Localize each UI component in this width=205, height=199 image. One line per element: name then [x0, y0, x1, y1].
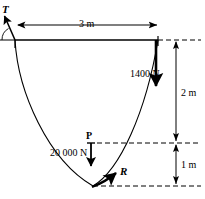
reaction-label: R: [120, 166, 127, 177]
diagram-canvas: [0, 0, 205, 199]
cable-path: [15, 40, 158, 186]
span-dimension-label: 3 m: [79, 19, 94, 29]
load-20000n: [87, 143, 95, 166]
sag-lower-dimension-label: 1 m: [181, 160, 196, 170]
point-p-label: P: [86, 131, 92, 141]
tension-vector: [0, 16, 15, 40]
engineering-diagram: 3 m 2 m 1 m 1400 N 20 000 N T R P: [0, 0, 205, 199]
tension-arrow: [5, 16, 16, 40]
cable-curve: [15, 40, 158, 186]
load-20000n-label: 20 000 N: [50, 148, 87, 158]
tension-label: T: [2, 4, 9, 15]
sag-upper-dimension-label: 2 m: [181, 88, 196, 98]
load-1400n-label: 1400 N: [130, 69, 160, 79]
angle-arc-icon: [2, 29, 9, 41]
reaction-vector: [92, 173, 116, 187]
top-chord: [15, 36, 158, 48]
curved-arrow-icon: [92, 173, 116, 187]
